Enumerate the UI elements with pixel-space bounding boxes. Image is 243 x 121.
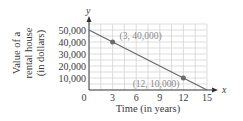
svg-text:Value of a: Value of a xyxy=(11,31,22,74)
y-tick-label: 40,000 xyxy=(59,37,87,48)
y-axis-label: Value of a rental house (in dollars) xyxy=(11,27,47,78)
chart: x y 10,00020,00030,00040,00050,000 03691… xyxy=(0,0,243,121)
y-tick-label: 10,000 xyxy=(59,73,87,84)
x-tick-labels: 03691215 xyxy=(82,92,213,103)
data-point xyxy=(181,76,186,81)
x-tick-label: 12 xyxy=(178,92,188,103)
y-axis-arrow-icon xyxy=(87,16,92,22)
x-tick-label: 0 xyxy=(82,92,87,103)
point-label: (12, 10,000) xyxy=(133,79,180,90)
point-label: (3, 40,000) xyxy=(120,31,162,42)
y-tick-label: 30,000 xyxy=(59,49,87,60)
x-axis-arrow-icon xyxy=(212,88,218,93)
x-tick-label: 6 xyxy=(134,92,139,103)
y-axis-symbol: y xyxy=(85,5,91,16)
y-tick-label: 50,000 xyxy=(59,25,87,36)
svg-text:(in dollars): (in dollars) xyxy=(35,29,47,76)
x-axis-symbol: x xyxy=(221,84,227,95)
data-point xyxy=(110,40,115,45)
y-tick-labels: 10,00020,00030,00040,00050,000 xyxy=(59,25,87,84)
y-tick-label: 20,000 xyxy=(59,61,87,72)
x-tick-label: 3 xyxy=(110,92,115,103)
svg-text:rental house: rental house xyxy=(23,27,34,78)
x-tick-label: 9 xyxy=(157,92,162,103)
x-axis-label: Time (in years) xyxy=(116,103,181,115)
x-tick-label: 15 xyxy=(202,92,212,103)
